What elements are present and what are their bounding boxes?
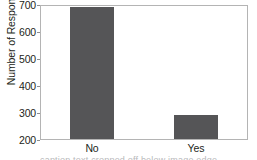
x-axis-tick-label: No bbox=[62, 142, 122, 154]
bar-chart-figure: Number of Responses 200300400500600700 N… bbox=[0, 0, 257, 160]
figure-caption-clipped: caption text cropped off below image edg… bbox=[40, 155, 257, 160]
bar-yes bbox=[174, 115, 218, 139]
y-axis-tick-mark bbox=[37, 86, 40, 87]
bar-no bbox=[70, 7, 114, 139]
y-axis-tick-mark bbox=[37, 32, 40, 33]
y-axis-tick-label: 300 bbox=[12, 108, 36, 118]
x-axis-tick-label: Yes bbox=[166, 142, 226, 154]
y-axis-tick-label: 500 bbox=[12, 54, 36, 64]
y-axis-tick-label: 200 bbox=[12, 135, 36, 145]
y-axis-tick-label: 700 bbox=[12, 0, 36, 10]
y-axis-tick-mark bbox=[37, 113, 40, 114]
x-axis-tick-labels: NoYes bbox=[40, 142, 248, 156]
plot-area bbox=[40, 5, 248, 140]
y-axis-tick-mark bbox=[37, 140, 40, 141]
y-axis-tick-label: 400 bbox=[12, 81, 36, 91]
y-axis-tick-labels: 200300400500600700 bbox=[12, 0, 36, 160]
y-axis-tick-mark bbox=[37, 59, 40, 60]
figure-caption-text: caption text cropped off below image edg… bbox=[40, 155, 257, 160]
y-axis-tick-label: 600 bbox=[12, 27, 36, 37]
y-axis-tick-mark bbox=[37, 5, 40, 6]
